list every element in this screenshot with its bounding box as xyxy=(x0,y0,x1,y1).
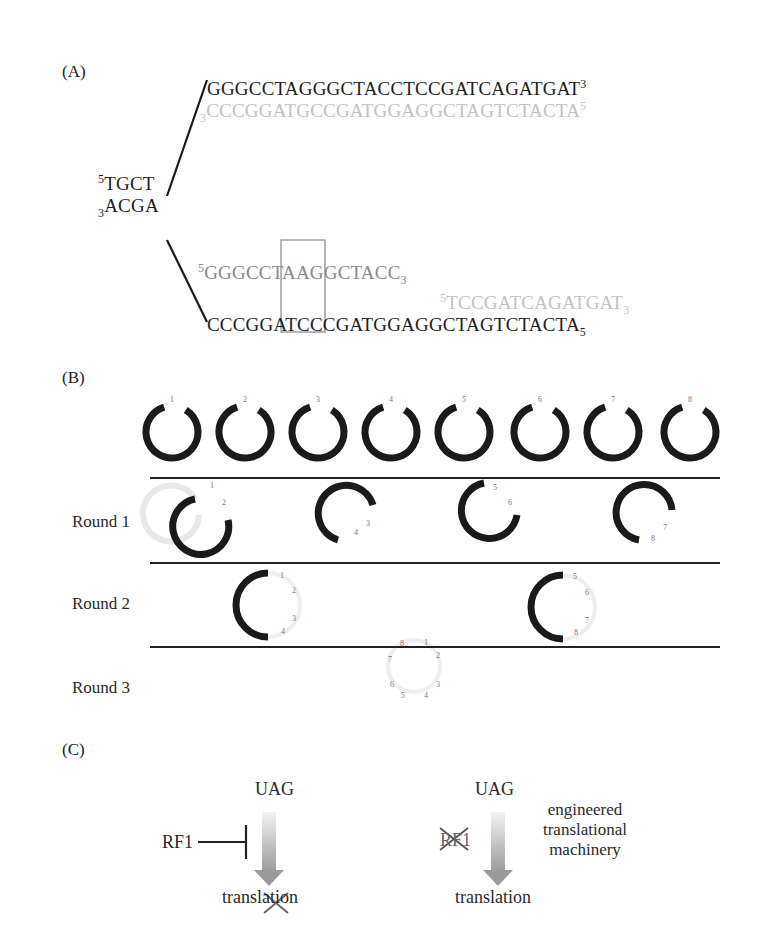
plasmid-8: 8 xyxy=(654,395,726,468)
upper-bottom-strand: 3CCCGGATGCCGATGGAGGCTAGTCTACTA5 xyxy=(200,100,586,124)
plasmid-1: 1 xyxy=(136,395,208,468)
note-line-3: machinery xyxy=(530,840,640,860)
svg-text:6: 6 xyxy=(390,680,394,689)
svg-text:4: 4 xyxy=(281,627,285,636)
svg-text:7: 7 xyxy=(663,523,667,532)
panel-c-label: (C) xyxy=(62,740,85,760)
plasmid-3: 3 xyxy=(282,395,354,468)
round1-plasmid-1-2: 12 xyxy=(143,481,229,554)
round2-plasmid-1-4: 12 34 xyxy=(236,571,300,637)
divider-round-1 xyxy=(150,477,720,479)
left-translation-label: translation xyxy=(222,887,298,908)
svg-text:4: 4 xyxy=(424,691,428,700)
svg-text:8: 8 xyxy=(574,628,578,637)
svg-text:7: 7 xyxy=(585,616,589,625)
round2-plasmid-5-8: 56 78 xyxy=(531,572,595,639)
engineered-machinery-note: engineered translational machinery xyxy=(530,800,640,860)
right-rf1-label: RF1 xyxy=(440,830,471,851)
svg-text:1: 1 xyxy=(170,395,174,404)
left-end-bottom-strand: 3ACGA xyxy=(98,196,159,219)
svg-text:3: 3 xyxy=(366,519,370,528)
svg-text:8: 8 xyxy=(688,395,692,404)
svg-text:2: 2 xyxy=(436,651,440,660)
left-gradient-arrow xyxy=(254,812,284,886)
left-rf1-label: RF1 xyxy=(162,832,193,853)
svg-text:2: 2 xyxy=(222,498,226,507)
plasmid-6: 6 xyxy=(504,395,576,468)
round-1-label: Round 1 xyxy=(72,512,130,532)
svg-text:4: 4 xyxy=(389,395,393,404)
svg-text:7: 7 xyxy=(388,655,392,664)
svg-text:4: 4 xyxy=(354,528,358,537)
svg-text:2: 2 xyxy=(243,395,247,404)
translation-diagram xyxy=(0,780,761,920)
svg-text:3: 3 xyxy=(316,395,320,404)
svg-text:6: 6 xyxy=(585,588,589,597)
round-2-label: Round 2 xyxy=(72,594,130,614)
rf1-inhibition-icon xyxy=(198,825,246,859)
right-gradient-arrow xyxy=(483,812,513,886)
divider-round-2 xyxy=(150,562,720,564)
round1-plasmid-7-8: 78 xyxy=(616,484,672,543)
svg-text:2: 2 xyxy=(292,586,296,595)
svg-text:5: 5 xyxy=(401,691,405,700)
template-strand: CCCGGATCCCGATGGAGGCTAGTCTACTA5 xyxy=(207,315,586,338)
downstream-oligo: 5TCCGATCAGATGAT3 xyxy=(440,292,629,316)
note-line-1: engineered xyxy=(530,800,640,820)
svg-text:5: 5 xyxy=(573,572,577,581)
round-3-label: Round 3 xyxy=(72,678,130,698)
svg-text:5: 5 xyxy=(493,483,497,492)
plasmid-5: 5 xyxy=(428,395,500,468)
note-line-2: translational xyxy=(530,820,640,840)
svg-text:6: 6 xyxy=(538,395,542,404)
round1-plasmid-5-6: 56 xyxy=(461,483,517,538)
svg-text:1: 1 xyxy=(280,571,284,580)
upper-top-strand: GGGCCTAGGGCTACCTCCGATCAGATGAT3 xyxy=(207,78,586,98)
left-codon-label: UAG xyxy=(255,779,294,800)
plasmid-2: 2 xyxy=(209,395,281,468)
plasmid-4: 4 xyxy=(355,395,427,468)
divider-round-3 xyxy=(150,646,720,648)
right-translation-label: translation xyxy=(455,887,531,908)
plasmid-7: 7 xyxy=(577,395,649,468)
right-codon-label: UAG xyxy=(475,779,514,800)
svg-text:7: 7 xyxy=(611,395,615,404)
mutagenic-oligo: 5GGGCCTAAGGCTACC3 xyxy=(198,262,407,286)
left-end-top-strand: 5TGCT xyxy=(98,173,155,193)
svg-text:3: 3 xyxy=(436,680,440,689)
svg-text:6: 6 xyxy=(508,498,512,507)
svg-text:1: 1 xyxy=(210,481,214,490)
svg-text:5: 5 xyxy=(462,395,466,404)
svg-text:3: 3 xyxy=(292,614,296,623)
svg-text:8: 8 xyxy=(651,534,655,543)
round1-plasmid-3-4: 34 xyxy=(318,485,373,540)
